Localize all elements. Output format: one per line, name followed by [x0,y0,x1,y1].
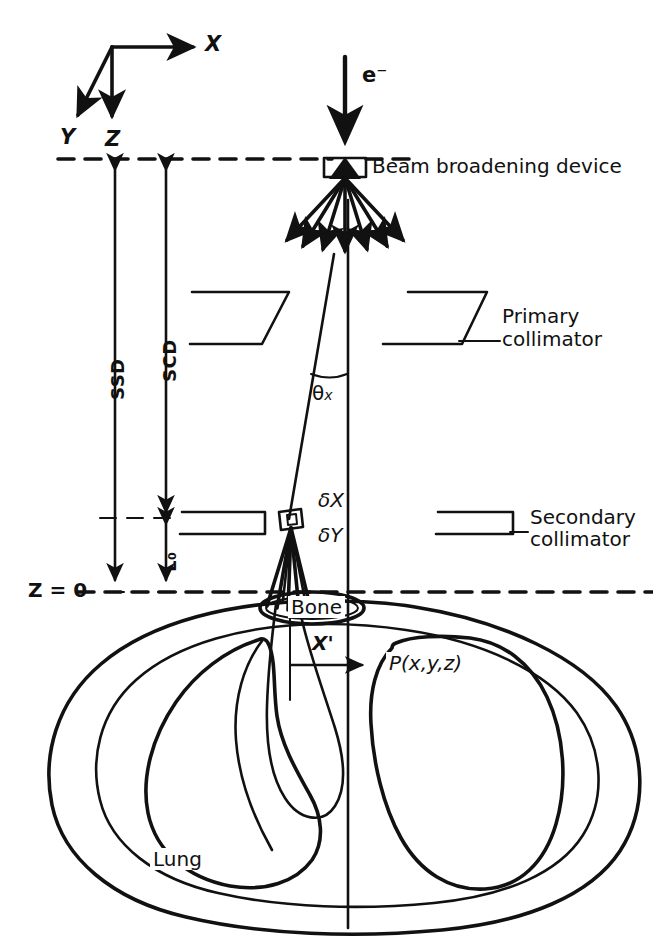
secondary-collimator [180,512,528,534]
point-p-label: P(x,y,z) [386,652,465,674]
primary-collimator-label-line1: Primary [502,305,579,327]
primary-collimator [190,292,500,344]
fan-ray-2 [303,178,345,246]
left-lung-fissure [236,641,272,850]
body-outer-contour [49,601,640,934]
l0-label: L₀ [160,552,180,572]
y-axis-label: Y [60,126,75,150]
delta-y-label: δY [318,524,342,546]
diagram-svg [0,0,653,944]
diagram-canvas: X Y Z e⁻ Beam broadening device Primary … [0,0,653,944]
ssd-label: SSD [108,358,128,400]
electron-beam-label: e⁻ [362,64,387,88]
primary-collimator-left-jaw [190,292,289,344]
x-prime-label: X' [312,632,334,654]
secondary-collimator-label-line2: collimator [530,528,630,550]
theta-x-label: θx [312,382,333,404]
fan-ray-6 [345,178,387,246]
device-scatterer-triangle [329,157,361,179]
bone-label: Bone [288,596,345,618]
theta-subscript: x [324,387,332,403]
beam-broadening-device-label: Beam broadening device [372,155,622,177]
coordinate-axes [78,47,193,116]
theta-angle-arc [311,374,347,378]
lung-label: Lung [150,848,205,870]
theta-glyph: θ [312,381,324,405]
primary-collimator-right-jaw [383,292,487,344]
broadening-fan [287,178,403,251]
secondary-collimator-left-jaw [180,512,265,534]
secondary-collimator-right-jaw [436,512,513,534]
secondary-collimator-label-line1: Secondary [530,506,636,528]
delta-x-label: δX [318,489,344,511]
x-axis-label: X [205,33,221,57]
primary-collimator-label-line2: collimator [502,328,602,350]
scd-label: SCD [160,339,180,382]
z-zero-label: Z = 0 [28,579,87,601]
y-axis-arrow [78,47,112,115]
z-axis-label: Z [105,128,120,152]
